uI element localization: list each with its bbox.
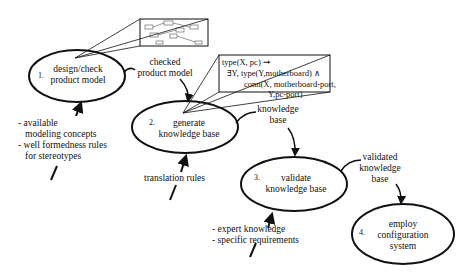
formula-line: ∃Y, type(Y,motherboard) ∧ — [222, 68, 336, 79]
step4-line3: system — [370, 241, 436, 252]
inputs-step2: translation rules — [144, 173, 205, 184]
formula-line: Y,pc-port) — [222, 90, 336, 99]
step1-line1: design/check — [48, 64, 108, 75]
flow-checked-product-model: checked product model — [135, 57, 195, 79]
flow-validated-knowledge-base: validated knowledge base — [355, 152, 405, 185]
step1-line2: product model — [48, 75, 108, 86]
step3-label: validate knowledge base — [258, 173, 334, 195]
flow-label-line: checked — [135, 57, 195, 68]
input-line: - specific requirements — [212, 235, 299, 246]
step4-line2: configuration — [370, 230, 436, 241]
input-line: for stereotypes — [18, 151, 107, 162]
flow-label-line: base — [355, 174, 405, 185]
flow-label-line: knowledge — [355, 163, 405, 174]
flow-knowledge-base: knowledge base — [253, 104, 303, 126]
step3-line2: knowledge base — [258, 184, 334, 195]
step4-number: 4. — [359, 228, 365, 237]
flow-label-line: base — [253, 115, 303, 126]
input-line: - available — [18, 118, 107, 129]
step1-number: 1. — [38, 71, 44, 80]
input-line: modeling concepts — [18, 129, 107, 140]
step3-line1: validate — [258, 173, 334, 184]
step2-label: generate knowledge base — [153, 118, 225, 140]
input-line: translation rules — [144, 173, 205, 184]
input-line: - expert knowledge — [212, 224, 299, 235]
input-line: - well formedness rules — [18, 140, 107, 151]
step4-label: employ configuration system — [370, 219, 436, 252]
step4-line1: employ — [370, 219, 436, 230]
flow-label-line: knowledge — [253, 104, 303, 115]
flow-label-line: product model — [135, 68, 195, 79]
step1-label: design/check product model — [48, 64, 108, 86]
formula-line: type(X, pc) ➞ — [222, 57, 336, 68]
flow-label-line: validated — [355, 152, 405, 163]
inputs-step1: - available modeling concepts - well for… — [18, 118, 107, 162]
inputs-step3: - expert knowledge - specific requiremen… — [212, 224, 299, 246]
step2-line1: generate — [153, 118, 225, 129]
formula-text: type(X, pc) ➞ ∃Y, type(Y,motherboard) ∧ … — [222, 57, 336, 99]
step2-line2: knowledge base — [153, 129, 225, 140]
